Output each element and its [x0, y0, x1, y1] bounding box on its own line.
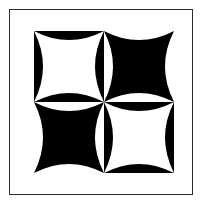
quadrant-bottom-right	[104, 102, 174, 173]
quadrant-top-right	[104, 31, 174, 102]
quadrant-top-left-shape	[34, 31, 104, 102]
quadrant-bottom-right-shape	[104, 102, 174, 173]
quadrant-bottom-left	[34, 102, 104, 173]
image-canvas	[0, 0, 201, 203]
quadrant-bottom-left-shape	[34, 102, 104, 173]
quadrant-top-right-shape	[104, 31, 174, 102]
quadrant-top-left	[34, 31, 104, 102]
artwork-svg	[34, 31, 174, 173]
artwork-grid	[34, 31, 174, 173]
outer-frame	[9, 9, 193, 195]
